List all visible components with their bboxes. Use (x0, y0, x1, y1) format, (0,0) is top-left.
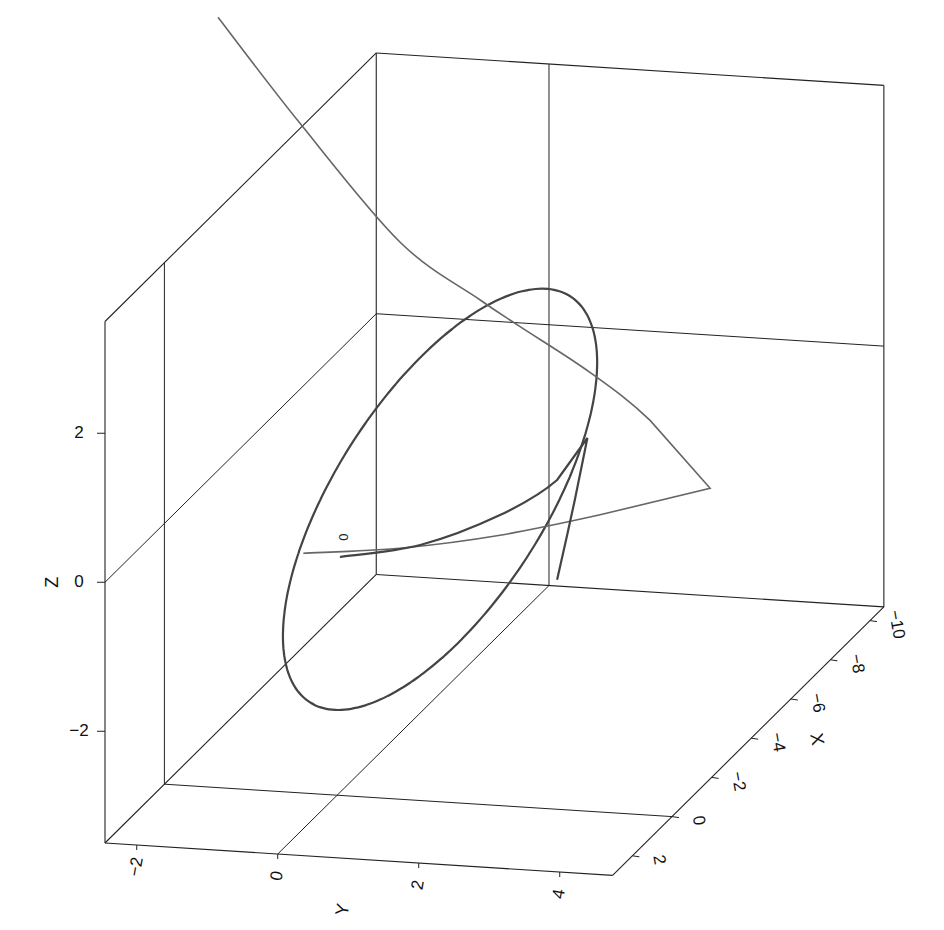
series-ellipse (283, 289, 597, 710)
z-axis-label: Z (42, 577, 62, 588)
z-tick-label: −2 (69, 721, 88, 740)
x-tick (830, 660, 837, 661)
x-axis-label: X (806, 732, 828, 747)
3d-plot: −202−202420−2−4−6−8−10 X Y Z 0 (0, 0, 944, 930)
axes-box (105, 53, 884, 875)
box-edge (376, 574, 884, 606)
grid-lines (105, 64, 884, 854)
x-tick (870, 621, 877, 622)
z-tick-label: 2 (74, 423, 83, 442)
series-cusp-curve (340, 438, 588, 580)
x-tick-label: −10 (885, 609, 909, 641)
annotation-label: 0 (336, 533, 351, 540)
x-tick-label: −6 (807, 692, 829, 714)
x-tick-label: 0 (689, 814, 709, 827)
axis-ticks: −202−202420−2−4−6−8−10 (69, 423, 909, 900)
box-edge (613, 607, 884, 876)
series-thin-curve (218, 17, 710, 553)
y-tick-label: 2 (408, 879, 428, 892)
grid-line-z0 (105, 314, 376, 583)
x-tick (712, 777, 719, 778)
curves (218, 17, 710, 710)
annotations: 0 (336, 533, 351, 540)
box-edge (376, 53, 884, 85)
x-tick-label: −2 (728, 770, 750, 792)
y-tick-label: −2 (125, 856, 147, 878)
x-tick-label: −4 (767, 731, 789, 753)
x-tick (632, 856, 639, 857)
z-tick-label: 0 (74, 572, 83, 591)
x-tick (791, 699, 798, 700)
x-tick-label: −8 (846, 652, 868, 674)
y-tick-label: 0 (267, 870, 287, 883)
x-tick (751, 738, 758, 739)
y-tick-label: 4 (549, 888, 569, 901)
box-edge (105, 843, 613, 875)
box-edge (105, 53, 376, 322)
grid-line-y0 (278, 586, 549, 855)
x-tick-label: 2 (649, 853, 669, 866)
box-edge (105, 574, 376, 843)
y-axis-label: Y (331, 902, 353, 917)
grid-line-x0 (164, 784, 672, 816)
x-tick (672, 817, 679, 818)
